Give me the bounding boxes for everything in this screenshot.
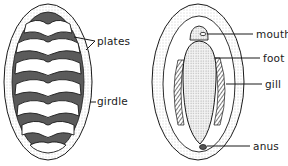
- label-girdle: girdle: [97, 96, 128, 107]
- anus-opening: [200, 145, 207, 150]
- label-plates: plates: [97, 36, 130, 47]
- ventral-view: [152, 4, 262, 160]
- label-gill: gill: [265, 79, 281, 90]
- chiton-diagram: [0, 0, 288, 166]
- label-foot: foot: [263, 53, 284, 64]
- label-anus: anus: [253, 141, 279, 152]
- label-mouth: mouth: [256, 29, 288, 40]
- mouth-opening: [200, 32, 206, 35]
- dorsal-view: [4, 4, 96, 160]
